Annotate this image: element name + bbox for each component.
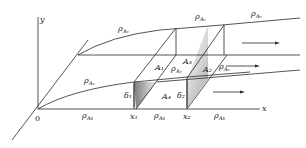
flow-arrow-bottom [213,91,245,94]
svg-text:A₀: A₀ [122,28,129,34]
flow-arrow-middle [226,65,260,68]
rho-a0-label-back-right: ρ A₀ [250,9,262,19]
rho-a0-label-a1: ρ A₀ [170,64,182,74]
y-axis-label: y [39,15,45,24]
diagram-canvas: y x 0 ρ A₀ ρ A₀ ρ A₀ ρ A₀ ρ A₀ ρ A₀ ρ As… [0,0,306,148]
area-a2-label: A₂ [202,65,212,74]
x-axis-label: x [262,104,267,113]
svg-text:As: As [158,115,166,121]
rho-a0-label-back-mid: ρ A₀ [194,12,206,22]
delta2-label: δ₂ [177,91,185,100]
boundary-layer-diagram: y x 0 ρ A₀ ρ A₀ ρ A₀ ρ A₀ ρ A₀ ρ A₀ ρ As… [0,0,306,148]
area-a3-label: A₃ [182,57,192,66]
delta1-label: δ₁ [124,91,132,100]
svg-text:As: As [86,115,94,121]
rho-as-label-left: ρ As [81,111,94,121]
shaded-section-x1 [134,82,157,109]
svg-text:A₀: A₀ [223,66,230,72]
z-axis [12,40,88,140]
rho-a0-label-back-left: ρ A₀ [117,24,129,34]
x2-label: x₂ [183,112,191,121]
rho-a0-label-front: ρ A₀ [83,76,95,86]
svg-text:A₀: A₀ [88,80,95,86]
flow-arrow-top [242,42,280,45]
svg-text:A₀: A₀ [199,16,206,22]
area-a4-label: A₄ [161,92,171,101]
svg-text:A₀: A₀ [255,13,262,19]
svg-text:A₀: A₀ [175,68,182,74]
rho-as-label-right: ρ As [213,111,226,121]
x1-label: x₁ [130,112,138,121]
svg-text:As: As [218,115,226,121]
rho-a0-label-a2: ρ A₀ [218,62,230,72]
area-a1-label: A₁ [154,63,164,72]
back-boundary-curve [78,18,300,55]
rho-as-label-mid: ρ As [153,111,166,121]
origin-label: 0 [35,114,40,123]
